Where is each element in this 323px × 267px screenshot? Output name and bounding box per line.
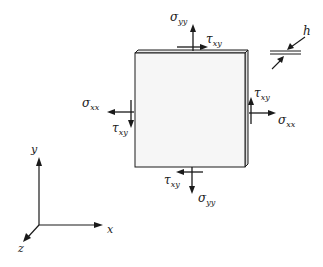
top-stress-arrows <box>177 24 208 51</box>
label-sigma-yy-bottom: σyy <box>198 191 216 207</box>
arrow-right-icon <box>268 110 276 116</box>
label-thickness-h: h <box>303 24 311 38</box>
label-tau-xy-right: τxy <box>254 86 270 102</box>
arrow-up-icon <box>190 24 196 32</box>
arrow-down-left-icon <box>287 43 294 50</box>
label-tau-xy-left: τxy <box>112 121 128 137</box>
plane-stress-diagram: σyy τxy σxx τxy τxy σxx τxy σyy h <box>0 0 323 267</box>
label-sigma-xx-right: σxx <box>278 113 296 129</box>
y-axis-label: y <box>30 143 38 156</box>
label-sigma-yy-top: σyy <box>170 10 188 26</box>
arrow-left-icon <box>176 169 184 175</box>
label-sigma-xx-left: σxx <box>82 96 100 112</box>
coordinate-axes <box>23 157 103 242</box>
label-tau-xy-top: τxy <box>206 32 222 48</box>
arrow-left-icon <box>107 109 115 115</box>
thickness-indicator <box>270 37 305 69</box>
arrow-up-right-icon <box>277 56 284 63</box>
bottom-stress-arrows <box>176 167 203 194</box>
x-axis-arrow-icon <box>94 222 103 228</box>
z-axis-label: z <box>17 242 24 255</box>
arrow-down-icon <box>128 120 134 128</box>
label-tau-xy-bottom: τxy <box>164 173 180 189</box>
arrow-down-icon <box>189 186 195 194</box>
x-axis-label: x <box>107 223 114 236</box>
plate-front-face <box>135 53 245 167</box>
plate-element <box>135 50 248 167</box>
y-axis-arrow-icon <box>36 157 42 166</box>
